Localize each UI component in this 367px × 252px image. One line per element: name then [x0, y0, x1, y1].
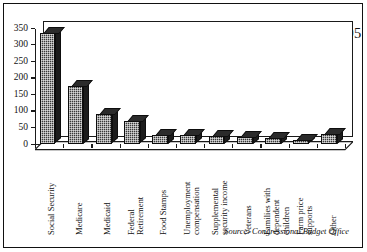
x-axis-category-label-line: compensation — [192, 182, 201, 235]
value-axis-line — [35, 29, 36, 145]
y-axis-tick-label: 200 — [14, 72, 28, 82]
x-axis-category-label-line: Food Stamps — [159, 190, 168, 235]
x-axis-category-label-line: Retirement — [136, 197, 145, 235]
bar-side-face — [83, 81, 89, 144]
bar — [124, 121, 140, 143]
y-axis-tick-label: 150 — [14, 89, 28, 99]
bar-front-face — [321, 134, 337, 144]
bar — [209, 136, 225, 144]
bar-side-face — [55, 28, 61, 143]
bar — [152, 135, 168, 144]
bar — [237, 137, 253, 144]
y-axis-tick-label: 100 — [14, 105, 28, 115]
x-axis-category-label: FederalRetirement — [127, 197, 146, 235]
y-axis-tick-label: 0 — [23, 139, 28, 149]
bar-front-face — [209, 136, 225, 144]
plot-area — [35, 21, 353, 145]
y-axis-tick-label: 50 — [19, 122, 29, 132]
bar — [40, 33, 56, 143]
x-axis-category-label-line: Social Security — [47, 183, 56, 235]
bar-front-face — [124, 121, 140, 143]
figure-inner-area: Federal Government Entitlement Spending,… — [7, 7, 359, 244]
x-axis-category-label: Unemploymentcompensation — [183, 182, 202, 235]
x-axis-category-label-line: Medicaid — [103, 203, 112, 235]
bar — [265, 138, 281, 144]
y-axis-tick-label: 250 — [14, 56, 28, 66]
bar-front-face — [237, 137, 253, 144]
bar-front-face — [68, 86, 84, 144]
y-axis-tick-label: 300 — [14, 39, 28, 49]
bar — [321, 134, 337, 144]
x-axis-category-label: Food Stamps — [159, 190, 168, 235]
plot-back-wall — [43, 21, 353, 137]
bar-front-face — [40, 33, 56, 143]
y-axis-tick-label: 350 — [14, 23, 28, 33]
bar-front-face — [96, 114, 112, 143]
x-axis-category-label: Social Security — [47, 183, 56, 235]
x-axis-category-label: Medicaid — [103, 203, 112, 235]
bar — [293, 140, 309, 143]
bar — [180, 135, 196, 143]
y-axis: 050100150200250300350 — [7, 21, 35, 153]
bar — [68, 86, 84, 144]
source-note: Source: Congressional Budget Office — [224, 227, 349, 236]
chart-figure: Federal Government Entitlement Spending,… — [0, 0, 367, 252]
x-axis-category-label-line: Medicare — [75, 203, 84, 235]
bar — [96, 114, 112, 143]
bar-front-face — [180, 135, 196, 143]
bar-front-face — [152, 135, 168, 144]
x-axis-category-labels: Social SecurityMedicareMedicaidFederalRe… — [35, 147, 353, 239]
bar-front-face — [293, 140, 309, 143]
x-axis-category-label: Medicare — [75, 203, 84, 235]
bar-front-face — [265, 138, 281, 144]
